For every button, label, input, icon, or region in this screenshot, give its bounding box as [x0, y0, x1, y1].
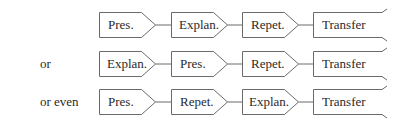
step-label: Explan. [249, 94, 289, 110]
transfer-label: Transfer [322, 94, 366, 110]
step-label: Repet. [180, 94, 214, 110]
step-label: Explan. [107, 56, 147, 72]
row-label-2: or [40, 56, 51, 72]
step-label: Explan. [179, 17, 219, 33]
row-label-3: or even [40, 94, 79, 110]
step-label: Pres. [180, 56, 206, 72]
step-label: Repet. [251, 56, 285, 72]
step-label: Pres. [108, 94, 134, 110]
transfer-label: Transfer [322, 56, 366, 72]
step-label: Repet. [251, 17, 285, 33]
transfer-label: Transfer [322, 17, 366, 33]
step-label: Pres. [108, 17, 134, 33]
